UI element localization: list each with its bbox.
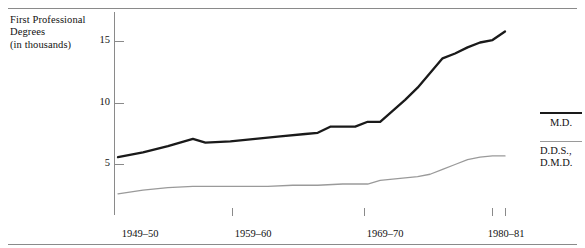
- legend-swatch-md: [540, 112, 582, 114]
- series-line-dds-dmd: [118, 156, 505, 194]
- legend-label-dds-line-1: D.D.S.,: [540, 145, 572, 157]
- legend-label-md: M.D.: [540, 117, 582, 129]
- plot-area: [0, 0, 585, 248]
- legend-swatch-dds-dmd: [540, 141, 582, 142]
- chart-figure: First Professional Degrees (in thousands…: [0, 0, 585, 248]
- series-line-md: [118, 32, 505, 158]
- legend-label-dds-line-2: D.M.D.: [540, 157, 572, 169]
